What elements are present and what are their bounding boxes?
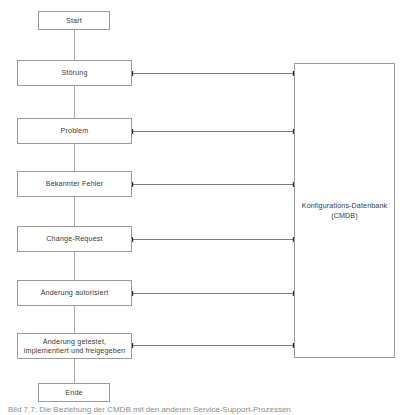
node-ende[interactable]: Ende (38, 383, 110, 402)
node-change-request[interactable]: Change-Request (17, 226, 132, 252)
node-bekannter-fehler-label: Bekannter Fehler (44, 179, 106, 189)
node-cmdb-label: Konfigurations-Datenbank (CMDB) (300, 201, 390, 221)
node-cmdb[interactable]: Konfigurations-Datenbank (CMDB) (294, 63, 395, 358)
figure-caption: Bild 7.7: Die Beziehung der CMDB mit den… (8, 405, 406, 415)
node-problem-label: Problem (59, 126, 91, 136)
node-start[interactable]: Start (38, 11, 110, 30)
node-start-label: Start (64, 16, 84, 26)
node-aenderung-getestet[interactable]: Änderung getestet, implementiert und fre… (17, 333, 132, 359)
node-aenderung-autorisiert[interactable]: Änderung autorisiert (17, 280, 132, 306)
node-bekannter-fehler[interactable]: Bekannter Fehler (17, 171, 132, 197)
node-aenderung-getestet-label: Änderung getestet, implementiert und fre… (22, 337, 127, 356)
node-change-request-label: Change-Request (44, 234, 104, 244)
node-stoerung-label: Störung (59, 68, 89, 78)
node-problem[interactable]: Problem (17, 118, 132, 144)
node-aenderung-autorisiert-label: Änderung autorisiert (39, 288, 111, 298)
node-stoerung[interactable]: Störung (17, 60, 132, 86)
node-ende-label: Ende (63, 388, 84, 398)
flowchart-diagram: Start Störung Problem Bekannter Fehler C… (0, 0, 406, 415)
